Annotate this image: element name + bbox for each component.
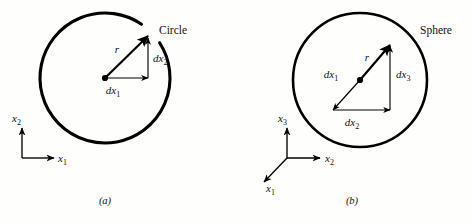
label-dx2: dx2 [345,116,359,131]
axis-label-x2: x2 [11,112,21,127]
axis-label-x1: x1 [57,152,67,167]
label-dx2-subscript: 2 [163,58,167,67]
label-dx3-text: dx [396,68,407,80]
panel-caption-b: (b) [346,195,359,207]
vector-dx1 [333,80,360,110]
panel-a: r dx1 dx2 Circle x2 x1 (a) [11,13,187,207]
label-dx3: dx3 [396,68,410,83]
axes-2d: x2 x1 [11,112,67,167]
axis-label-x3-subscript: 3 [283,118,287,127]
axes-3d: x3 x2 x1 [264,112,334,197]
panel-caption-a: (a) [99,195,112,207]
label-dx2-subscript: 2 [355,122,359,131]
label-dx1: dx1 [324,68,338,83]
panel-b: r dx1 dx2 dx3 Sphere x3 x2 x1 (b) [264,13,452,207]
label-dx1-text: dx [106,84,117,96]
axis-label-x2: x2 [324,152,334,167]
center-point [357,77,363,83]
center-point [102,75,108,81]
vector-r [105,36,148,78]
label-dx1: dx1 [106,84,120,99]
shape-label-sphere: Sphere [420,24,452,37]
label-dx2-text: dx [153,52,164,64]
axis-label-x2-subscript: 2 [330,158,334,167]
label-dx1-subscript: 1 [334,74,338,83]
label-dx2-text: dx [345,116,356,128]
axis-x1 [264,158,287,182]
label-dx1-text: dx [324,68,335,80]
label-dx1-subscript: 1 [116,90,120,99]
label-dx3-subscript: 3 [406,74,410,83]
axis-label-x1-subscript: 1 [271,188,275,197]
axis-label-x3: x3 [277,112,287,127]
axis-label-x1: x1 [265,182,275,197]
label-r: r [365,51,370,63]
shape-label-circle: Circle [159,24,187,36]
axis-label-x1-subscript: 1 [63,158,67,167]
figure-root: r dx1 dx2 Circle x2 x1 (a) r [0,0,472,224]
label-r: r [115,43,120,55]
figure-canvas: r dx1 dx2 Circle x2 x1 (a) r [0,0,472,224]
axis-label-x2-subscript: 2 [17,118,21,127]
